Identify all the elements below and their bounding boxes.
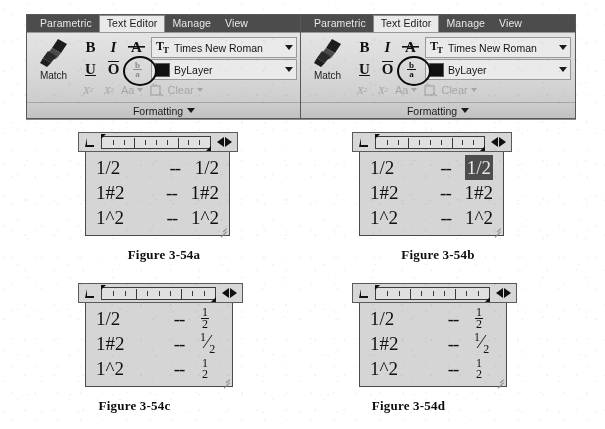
clear-formatting-button[interactable]: Aa Clear	[150, 83, 202, 97]
superscript-button[interactable]: X2	[79, 84, 97, 96]
format-row-2-b: U O b a	[353, 58, 424, 80]
indent-marker-right[interactable]	[211, 297, 216, 302]
change-case-label: Aa	[121, 84, 134, 96]
formatting-panel-footer-a[interactable]: Formatting	[27, 102, 301, 118]
editor-textarea-d[interactable]: 1/2 -- 1 2 1#2 -- 1⁄2 1^	[359, 303, 507, 387]
editor-ruler-a[interactable]	[78, 132, 238, 152]
ruler-width-arrows-icon[interactable]	[485, 137, 511, 147]
indent-marker-right[interactable]	[480, 146, 485, 151]
editor-ruler-c[interactable]	[78, 283, 243, 303]
indent-marker-left[interactable]	[375, 285, 380, 290]
subscript-button[interactable]: X2	[100, 84, 118, 96]
editor-textarea-a[interactable]: 1/2 -- 1/2 1#2 -- 1#2 1^2 -- 1^2	[85, 152, 230, 236]
editor-resize-grip[interactable]	[218, 225, 227, 234]
editor-textarea-c[interactable]: 1/2 -- 1 2 1#2 -- 1⁄2 1^	[85, 303, 233, 387]
ruler-track-a[interactable]	[101, 136, 211, 149]
text-editor-a: 1/2 -- 1/2 1#2 -- 1#2 1^2 -- 1^2	[78, 132, 238, 236]
line-left-text: 1^2	[370, 356, 432, 381]
ruler-width-arrows-icon[interactable]	[490, 288, 516, 298]
fraction-denominator: 2	[202, 369, 208, 380]
tab-manage[interactable]: Manage	[439, 16, 492, 32]
font-family-dropdown[interactable]: TT Times New Roman	[151, 37, 297, 58]
line-left-text: 1^2	[96, 356, 158, 381]
chevron-down-icon	[197, 88, 203, 92]
ruler-track-d[interactable]	[375, 287, 490, 300]
font-tt-icon: TT	[152, 39, 172, 55]
bold-button[interactable]: B	[79, 37, 102, 58]
editor-line: 1^2 -- 1^2	[96, 205, 219, 230]
indent-marker-left[interactable]	[375, 134, 380, 139]
tab-view[interactable]: View	[492, 16, 529, 32]
format-row-2-a: U O b a	[79, 58, 150, 80]
tab-view[interactable]: View	[218, 16, 255, 32]
match-properties-brush-icon	[30, 36, 77, 69]
chevron-down-icon[interactable]	[282, 45, 296, 50]
tab-parametric[interactable]: Parametric	[33, 16, 99, 32]
indent-marker-right[interactable]	[206, 146, 211, 151]
clear-formatting-button[interactable]: Aa Clear	[424, 83, 476, 97]
indent-marker-left[interactable]	[101, 134, 106, 139]
indent-marker-right[interactable]	[485, 297, 490, 302]
editor-textarea-b[interactable]: 1/2 -- 1/2 1#2 -- 1#2 1^2 -- 1^2	[359, 152, 504, 236]
editor-ruler-b[interactable]	[352, 132, 512, 152]
indent-marker-left[interactable]	[101, 285, 106, 290]
line-left-text: 1/2	[96, 155, 155, 180]
match-properties-button[interactable]: Match	[304, 36, 351, 81]
match-properties-button[interactable]: Match	[30, 36, 77, 81]
overline-glyph: O	[108, 61, 120, 77]
formatting-panel-footer-b[interactable]: Formatting	[301, 102, 575, 118]
overline-glyph: O	[382, 61, 394, 77]
editor-resize-grip[interactable]	[495, 376, 504, 385]
text-color-value: ByLayer	[172, 64, 282, 76]
stack-fraction-button[interactable]: b a	[399, 59, 424, 80]
strikethrough-button[interactable]: A	[399, 37, 422, 58]
tab-stop-l-icon[interactable]	[79, 137, 101, 148]
underline-button[interactable]: U	[79, 59, 102, 80]
tab-manage[interactable]: Manage	[165, 16, 218, 32]
tab-parametric[interactable]: Parametric	[307, 16, 373, 32]
ruler-track-c[interactable]	[101, 287, 216, 300]
tab-text-editor[interactable]: Text Editor	[99, 15, 166, 32]
ruler-width-arrows-icon[interactable]	[211, 137, 237, 147]
stacked-fraction-slash: 1⁄2	[474, 328, 489, 359]
font-family-value: Times New Roman	[446, 42, 556, 54]
overline-button[interactable]: O	[376, 59, 399, 80]
superscript-button[interactable]: X2	[353, 84, 371, 96]
underline-button[interactable]: U	[353, 59, 376, 80]
strikethrough-button[interactable]: A	[125, 37, 148, 58]
chevron-down-icon[interactable]	[556, 45, 570, 50]
tab-stop-l-icon[interactable]	[79, 288, 101, 299]
editor-resize-grip[interactable]	[492, 225, 501, 234]
chevron-down-icon[interactable]	[282, 67, 296, 72]
tab-stop-l-icon[interactable]	[353, 288, 375, 299]
stacked-fraction-tolerance: 1 2	[201, 358, 209, 380]
text-color-dropdown[interactable]: ByLayer	[151, 59, 297, 80]
match-properties-label: Match	[304, 70, 351, 81]
subscript-button[interactable]: X2	[374, 84, 392, 96]
figure-block-a: Parametric Text Editor Manage View	[26, 14, 302, 263]
clear-formatting-icon: Aa	[424, 83, 439, 97]
italic-button[interactable]: I	[376, 37, 399, 58]
line-right-fraction: 1⁄2	[474, 328, 496, 359]
figure-caption-c: Figure 3-54c	[26, 398, 243, 414]
tab-stop-l-icon[interactable]	[353, 137, 375, 148]
ruler-track-b[interactable]	[375, 136, 485, 149]
italic-button[interactable]: I	[102, 37, 125, 58]
chevron-down-icon[interactable]	[556, 67, 570, 72]
editor-ruler-d[interactable]	[352, 283, 517, 303]
editor-resize-grip[interactable]	[221, 376, 230, 385]
text-color-dropdown[interactable]: ByLayer	[425, 59, 571, 80]
font-tt-icon: TT	[426, 39, 446, 55]
strikethrough-line-icon	[128, 46, 145, 48]
tab-text-editor[interactable]: Text Editor	[373, 15, 440, 32]
editor-line: 1/2 -- 1/2	[96, 155, 219, 180]
line-left-text: 1#2	[370, 331, 432, 356]
line-right-text: 1/2	[195, 155, 219, 180]
font-family-dropdown[interactable]: TT Times New Roman	[425, 37, 571, 58]
bold-button[interactable]: B	[353, 37, 376, 58]
stack-fraction-button[interactable]: b a	[125, 59, 150, 80]
overline-button[interactable]: O	[102, 59, 125, 80]
subscript-glyph: X	[104, 84, 111, 96]
annotation-circle-b	[397, 56, 431, 86]
ruler-width-arrows-icon[interactable]	[216, 288, 242, 298]
